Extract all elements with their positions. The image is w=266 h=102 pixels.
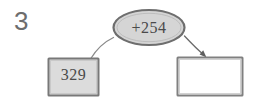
connector-operation-to-output bbox=[185, 36, 205, 55]
worksheet-canvas: 3 +254 329 bbox=[0, 0, 266, 102]
input-value-label: 329 bbox=[48, 65, 99, 84]
operation-label: +254 bbox=[113, 18, 185, 37]
output-box[interactable] bbox=[178, 58, 243, 96]
connector-input-to-operation bbox=[91, 38, 114, 60]
diagram-graphics bbox=[0, 0, 266, 102]
